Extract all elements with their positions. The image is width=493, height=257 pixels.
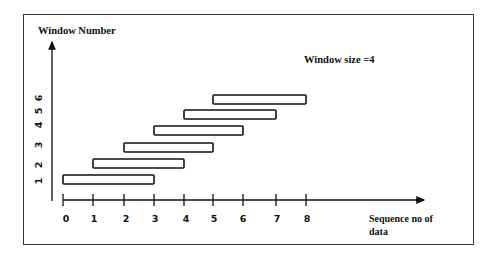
sliding-window-diagram: Window Number 0 1 2 3 4 5 6 7 8 Sequence… <box>0 0 493 257</box>
window-size-annotation: Window size =4 <box>304 54 375 65</box>
x-tick-2: 2 <box>123 213 130 224</box>
x-tick-8: 8 <box>304 213 311 224</box>
window-bar-5 <box>184 110 276 119</box>
x-tick-1: 1 <box>91 213 98 224</box>
x-tick-3: 3 <box>152 213 159 224</box>
y-tick-4: 4 <box>33 121 44 128</box>
x-axis-label-line2: data <box>369 226 388 237</box>
x-tick-0: 0 <box>63 213 70 224</box>
x-axis-label-line1: Sequence no of <box>369 213 434 224</box>
window-bar-6 <box>213 95 306 104</box>
x-tick-4: 4 <box>183 213 190 224</box>
window-bar-3 <box>124 143 213 152</box>
y-tick-5: 5 <box>33 108 44 115</box>
x-tick-5: 5 <box>211 213 218 224</box>
window-bar-2 <box>93 159 184 168</box>
x-tick-7: 7 <box>274 213 281 224</box>
y-tick-3: 3 <box>33 142 44 149</box>
y-tick-1: 1 <box>33 178 44 185</box>
y-axis-label: Window Number <box>38 25 116 36</box>
x-tick-6: 6 <box>240 213 247 224</box>
y-tick-2: 2 <box>33 162 44 169</box>
y-tick-6: 6 <box>33 94 44 101</box>
window-bar-4 <box>154 126 243 135</box>
window-bar-1 <box>63 175 154 184</box>
